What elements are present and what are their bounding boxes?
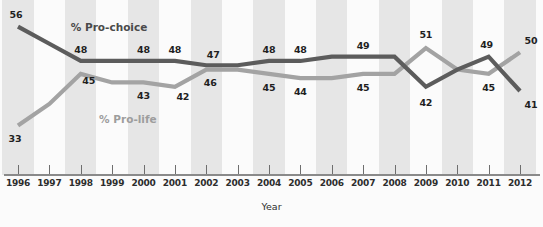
data-label-pro-life-1996: 33 bbox=[9, 133, 22, 144]
line-chart: 5648484847484849424941334543424645444551… bbox=[0, 0, 543, 227]
x-tick-label-2001: 2001 bbox=[163, 178, 187, 188]
data-label-pro-choice-2001: 48 bbox=[168, 43, 181, 54]
data-label-pro-choice-2004: 48 bbox=[263, 43, 276, 54]
data-label-pro-life-2012: 50 bbox=[525, 35, 538, 46]
x-tick-label-2007: 2007 bbox=[351, 178, 375, 188]
x-tick-2012 bbox=[520, 165, 521, 174]
x-tick-2007 bbox=[363, 165, 364, 174]
x-tick-label-2006: 2006 bbox=[320, 178, 344, 188]
data-label-pro-life-2001: 42 bbox=[176, 90, 189, 101]
x-tick-2004 bbox=[269, 165, 270, 174]
x-tick-label-2003: 2003 bbox=[226, 178, 250, 188]
data-label-pro-choice-2007: 49 bbox=[357, 39, 370, 50]
data-label-pro-choice-2012: 41 bbox=[525, 99, 538, 110]
x-tick-2002 bbox=[206, 165, 207, 174]
x-tick-2005 bbox=[300, 165, 301, 174]
prolife-series-label: % Pro-life bbox=[99, 113, 157, 125]
x-tick-1997 bbox=[49, 165, 50, 174]
x-tick-label-2010: 2010 bbox=[445, 178, 469, 188]
x-axis-line bbox=[4, 174, 540, 176]
data-label-pro-choice-2005: 48 bbox=[294, 43, 307, 54]
data-label-pro-choice-2000: 48 bbox=[137, 43, 150, 54]
data-label-pro-life-2009: 51 bbox=[419, 29, 432, 40]
x-tick-2000 bbox=[144, 165, 145, 174]
data-label-pro-choice-2009: 42 bbox=[419, 96, 432, 107]
x-tick-label-1998: 1998 bbox=[69, 178, 93, 188]
x-tick-1999 bbox=[112, 165, 113, 174]
x-tick-label-2008: 2008 bbox=[382, 178, 406, 188]
data-label-pro-life-2007: 45 bbox=[357, 81, 370, 92]
x-tick-label-1999: 1999 bbox=[100, 178, 124, 188]
x-tick-label-1996: 1996 bbox=[6, 178, 30, 188]
x-tick-2003 bbox=[238, 165, 239, 174]
prochoice-series-label: % Pro-choice bbox=[71, 21, 147, 33]
data-label-pro-choice-1998: 48 bbox=[74, 43, 87, 54]
x-tick-label-2000: 2000 bbox=[131, 178, 155, 188]
x-tick-2006 bbox=[332, 165, 333, 174]
data-label-pro-life-2011: 45 bbox=[482, 81, 495, 92]
data-label-pro-choice-1996: 56 bbox=[10, 8, 23, 19]
x-tick-2001 bbox=[175, 165, 176, 174]
x-tick-label-1997: 1997 bbox=[37, 178, 61, 188]
x-tick-2008 bbox=[395, 165, 396, 174]
x-tick-label-2009: 2009 bbox=[414, 178, 438, 188]
data-label-pro-life-2005: 44 bbox=[294, 86, 307, 97]
x-tick-2009 bbox=[426, 165, 427, 174]
x-axis-title: Year bbox=[0, 201, 543, 212]
x-tick-label-2012: 2012 bbox=[508, 178, 532, 188]
data-label-pro-life-2000: 43 bbox=[137, 90, 150, 101]
x-tick-label-2011: 2011 bbox=[477, 178, 501, 188]
data-label-pro-life-1998: 45 bbox=[82, 74, 95, 85]
data-label-pro-life-2002: 46 bbox=[204, 76, 217, 87]
x-tick-label-2004: 2004 bbox=[257, 178, 281, 188]
data-label-pro-choice-2002: 47 bbox=[207, 49, 220, 60]
x-tick-label-2005: 2005 bbox=[288, 178, 312, 188]
data-label-pro-life-2004: 45 bbox=[263, 81, 276, 92]
data-label-pro-choice-2011: 49 bbox=[480, 38, 493, 49]
x-tick-1998 bbox=[81, 165, 82, 174]
x-tick-2011 bbox=[489, 165, 490, 174]
x-tick-label-2002: 2002 bbox=[194, 178, 218, 188]
x-tick-1996 bbox=[18, 165, 19, 174]
x-tick-2010 bbox=[457, 165, 458, 174]
